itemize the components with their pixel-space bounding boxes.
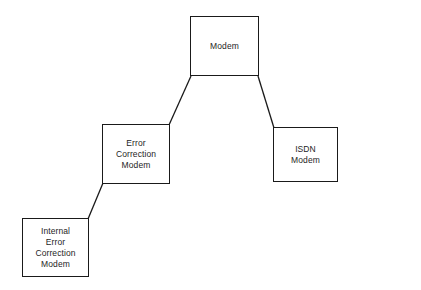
diagram-canvas: Modem Error Correction Modem ISDN Modem … (0, 0, 421, 290)
node-internal-error-correction-modem[interactable]: Internal Error Correction Modem (22, 218, 89, 277)
node-isdn-modem-label: ISDN Modem (291, 144, 320, 166)
node-error-correction-modem-label: Error Correction Modem (116, 138, 156, 171)
node-internal-error-correction-modem-label: Internal Error Correction Modem (35, 226, 75, 270)
node-modem[interactable]: Modem (190, 16, 259, 76)
node-modem-label: Modem (210, 41, 239, 52)
edge-modem-to-isdn (258, 76, 274, 128)
node-error-correction-modem[interactable]: Error Correction Modem (102, 124, 170, 184)
node-isdn-modem[interactable]: ISDN Modem (273, 127, 338, 182)
edge-modem-to-error-correction (169, 76, 191, 125)
edge-error-correction-to-internal (88, 183, 103, 219)
